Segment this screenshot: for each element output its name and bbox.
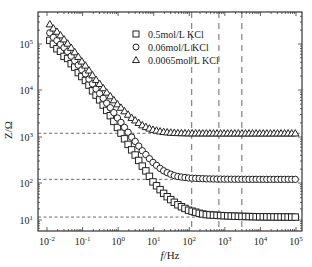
y-tick-label: 104 — [20, 84, 34, 96]
legend-item: 0.06mol/L KCl — [133, 42, 209, 53]
legend-marker-square — [133, 31, 139, 37]
x-tick-label: 102 — [183, 235, 197, 247]
x-tick-label: 103 — [218, 235, 232, 247]
legend-item: 0.0065mol/L KCl — [133, 55, 219, 66]
series-circle — [47, 30, 299, 183]
y-tick-label: 101 — [20, 214, 34, 226]
x-tick-label: 104 — [254, 235, 268, 247]
x-tick-label: 10-1 — [75, 235, 91, 247]
y-tick-label: 105 — [20, 38, 34, 50]
legend-label: 0.0065mol/L KCl — [148, 55, 219, 66]
legend-item: 0.5mol/L KCl — [133, 29, 204, 40]
data-point — [292, 214, 298, 220]
x-tick-label: 10-2 — [39, 235, 55, 247]
legend-marker-triangle — [133, 57, 140, 63]
x-tick-label: 105 — [289, 235, 303, 247]
x-tick-labels: 10-210-1100101102103104105 — [39, 235, 303, 247]
y-axis-label: Z/Ω — [2, 121, 14, 139]
impedance-chart: 10-210-1100101102103104105 1051041031021… — [0, 0, 312, 267]
data-point — [292, 176, 298, 182]
legend-label: 0.06mol/L KCl — [148, 42, 209, 53]
y-tick-label: 103 — [20, 131, 34, 143]
y-tick-labels: 105104103102101 — [20, 38, 34, 226]
x-tick-label: 101 — [147, 235, 161, 247]
legend: 0.5mol/L KCl0.06mol/L KCl0.0065mol/L KCl — [133, 29, 219, 66]
x-tick-label: 100 — [111, 235, 125, 247]
legend-label: 0.5mol/L KCl — [148, 29, 204, 40]
legend-marker-circle — [133, 44, 139, 50]
x-axis-label: f/Hz — [161, 249, 180, 261]
y-tick-label: 102 — [20, 177, 34, 189]
